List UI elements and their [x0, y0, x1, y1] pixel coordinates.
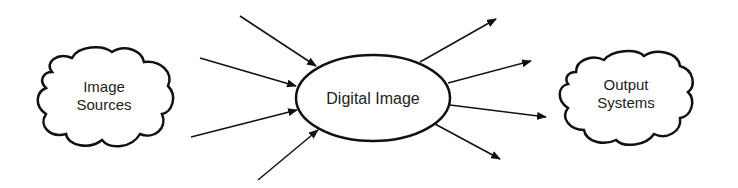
outgoing-arrow-4 [435, 124, 500, 159]
outgoing-arrow-2 [448, 61, 531, 83]
outgoing-arrow-3 [450, 105, 546, 117]
outgoing-arrow-1 [420, 19, 496, 62]
incoming-arrow-3 [191, 110, 297, 137]
output-systems-node: Output Systems [560, 51, 693, 145]
incoming-arrow-2 [200, 58, 296, 86]
digital-image-node: Digital Image [296, 55, 450, 141]
image-sources-label-line2: Sources [76, 96, 131, 113]
incoming-arrow-4 [258, 130, 318, 180]
image-sources-label-line1: Image [83, 78, 125, 95]
digital-image-label: Digital Image [326, 90, 419, 107]
output-systems-label-line2: Systems [597, 94, 655, 111]
output-systems-label-line1: Output [603, 76, 649, 93]
incoming-arrow-1 [240, 16, 316, 66]
diagram-canvas: Image Sources Digital Image Output Syste… [0, 0, 738, 188]
image-sources-node: Image Sources [38, 47, 173, 146]
